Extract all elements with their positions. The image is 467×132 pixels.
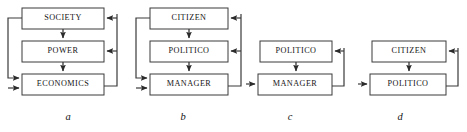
node-box-citizen-d [372, 41, 446, 62]
figure-root: SOCIETY POWER ECONOMICS a CITIZEN POLITI… [0, 0, 467, 132]
edge-politico-to-right-bus-d [446, 48, 458, 86]
panel-d: CITIZEN POLITICO d [0, 0, 467, 132]
node-box-politico-d [370, 74, 446, 95]
panel-caption-d: d [380, 112, 420, 123]
